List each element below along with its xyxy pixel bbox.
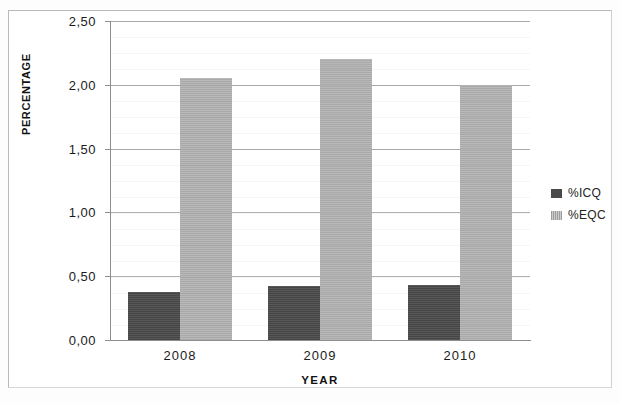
y-axis-tick-label: 1,00 [36,205,96,220]
y-axis-tick-label: 1,50 [36,141,96,156]
x-axis-tick-label-2009: 2009 [260,348,380,363]
legend-item-eqc: %EQC [551,204,606,226]
legend-swatch-icq [551,189,562,198]
legend-label-icq: %ICQ [568,186,601,200]
y-axis-tick-label: 2,00 [36,77,96,92]
bar-icq-2010 [408,285,460,340]
bar-icq-2008 [128,292,180,340]
chart-legend: %ICQ %EQC [551,182,606,226]
legend-item-icq: %ICQ [551,182,606,204]
y-axis-title: PERCENTAGE [20,53,32,135]
bar-eqc-2010 [460,85,512,340]
y-axis-tick-label: 2,50 [36,14,96,29]
y-axis-tick-label: 0,50 [36,269,96,284]
figure-container: PERCENTAGE 0,000,501,001,502,002,50 2008… [0,0,620,404]
legend-swatch-eqc [551,211,562,220]
bar-eqc-2008 [180,78,232,340]
x-axis-tick-label-2010: 2010 [400,348,520,363]
plot-area [110,21,530,340]
x-axis-line [110,340,531,341]
x-axis-title: YEAR [110,374,530,386]
y-axis-line [110,21,111,341]
legend-label-eqc: %EQC [568,208,606,222]
y-axis-tick-label: 0,00 [36,333,96,348]
gridline [110,21,530,22]
bar-eqc-2009 [320,59,372,340]
bar-icq-2009 [268,286,320,340]
x-axis-tick-label-2008: 2008 [120,348,240,363]
